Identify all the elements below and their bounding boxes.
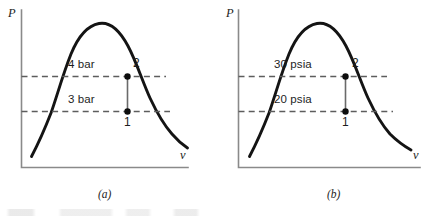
panel-a-axes [22, 10, 189, 168]
panel-b: P v 30 psia 20 psia 2 1 (b) [221, 0, 442, 218]
panel-b-pressure-label-upper: 30 psia [274, 59, 312, 71]
panel-a-pressure-label-lower: 3 bar [68, 94, 95, 106]
cropped-caption-smudge [6, 209, 211, 216]
panel-a: P v 4 bar 3 bar 2 1 (a) [0, 0, 221, 218]
panel-a-caption: (a) [98, 189, 111, 201]
panel-b-y-axis-label: P [226, 7, 234, 20]
panel-a-pressure-label-upper: 4 bar [68, 59, 95, 71]
panel-a-plot [0, 0, 221, 218]
panel-b-axes [239, 10, 421, 168]
panel-a-state-dot-2 [124, 73, 130, 79]
panel-b-state-dot-1 [342, 108, 348, 114]
panel-b-caption: (b) [327, 189, 340, 201]
panel-a-saturation-dome [32, 23, 188, 156]
panel-b-x-axis-label: v [413, 149, 419, 162]
panel-a-x-axis-label: v [180, 149, 186, 162]
panel-b-pressure-label-lower: 20 psia [274, 94, 312, 106]
panel-a-y-axis-label: P [8, 7, 16, 20]
panel-b-plot [221, 0, 442, 218]
panel-b-state-label-1: 1 [342, 116, 349, 128]
panel-b-saturation-dome [250, 23, 412, 156]
panel-b-state-dot-2 [342, 73, 348, 79]
figure-pv-diagrams: P v 4 bar 3 bar 2 1 (a) P v 30 psia [0, 0, 442, 218]
panel-b-state-label-2: 2 [352, 57, 359, 69]
panel-a-state-dot-1 [124, 108, 130, 114]
panel-a-state-label-1: 1 [124, 116, 131, 128]
panel-a-state-label-2: 2 [133, 57, 140, 69]
